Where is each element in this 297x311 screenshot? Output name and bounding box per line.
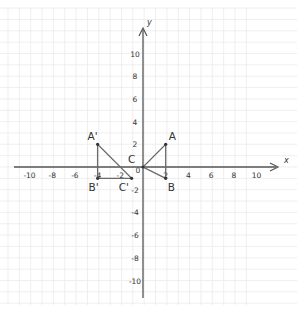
point-label: A' [88, 130, 98, 142]
coordinate-plane-diagram: x y -10-8-6-4-20246810 108642-2-4-6-8-10… [0, 0, 297, 311]
y-tick-label: 4 [133, 118, 138, 127]
x-axis-label: x [283, 156, 289, 165]
y-tick-label: -10 [129, 277, 141, 286]
y-tick-label: 6 [133, 95, 138, 104]
y-tick-label: 8 [133, 72, 138, 81]
point-label: B [168, 181, 175, 193]
y-tick-label: 10 [130, 50, 140, 59]
point-dot [164, 177, 167, 180]
point-dot [96, 177, 99, 180]
y-tick-label: -2 [131, 186, 139, 195]
point-label: C [128, 153, 135, 165]
y-axis-label: y [146, 18, 152, 27]
point-label: B' [89, 181, 99, 193]
grid-lines [0, 8, 297, 305]
point-label: C' [119, 181, 129, 193]
point-dot [141, 165, 144, 168]
y-tick-label: -8 [131, 254, 139, 263]
y-tick-label: -4 [131, 208, 139, 217]
point-dot [130, 177, 133, 180]
x-tick-label: 4 [186, 171, 191, 180]
point-dot [164, 143, 167, 146]
triangle-a-prime-b-prime-c-prime [98, 144, 132, 178]
x-tick-label: 6 [209, 171, 214, 180]
x-tick-label: -6 [71, 171, 79, 180]
x-tick-label: -10 [23, 171, 35, 180]
x-tick-label: 10 [252, 171, 262, 180]
x-tick-label: -8 [48, 171, 56, 180]
coordinate-plane: x y -10-8-6-4-20246810 108642-2-4-6-8-10… [0, 0, 297, 311]
y-tick-label: -6 [131, 231, 139, 240]
triangle-abc [143, 144, 166, 178]
point-label: A [169, 130, 177, 142]
x-tick-label: 8 [231, 171, 236, 180]
x-tick-label: 0 [136, 166, 141, 175]
point-dot [96, 143, 99, 146]
y-tick-label: 2 [133, 140, 138, 149]
